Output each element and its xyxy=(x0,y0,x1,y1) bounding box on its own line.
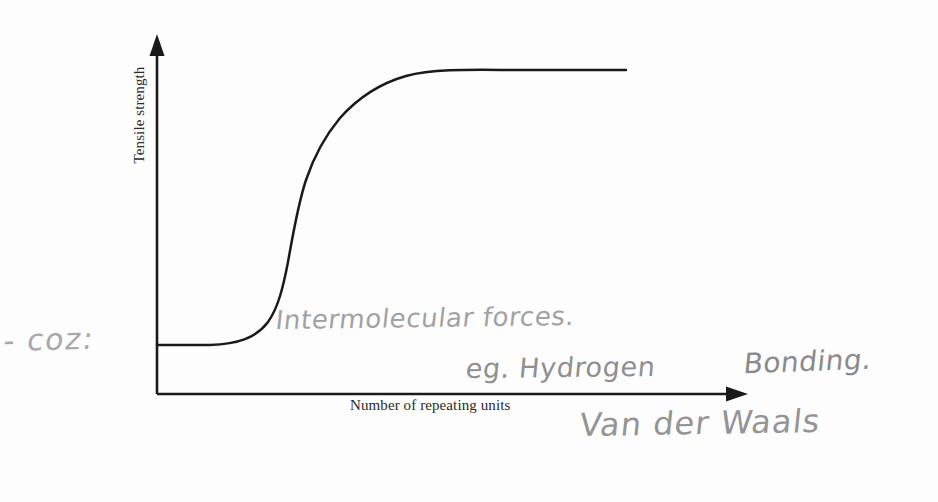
y-axis xyxy=(150,34,165,394)
x-axis-label: Number of repeating units xyxy=(350,397,510,414)
y-axis-label: Tensile strength xyxy=(131,67,148,164)
annotation-van-der-waals: Van der Waals xyxy=(578,402,823,444)
annotation-bonding: Bonding. xyxy=(742,343,873,380)
figure-page: Tensile strength Number of repeating uni… xyxy=(0,0,938,502)
annotation-eg-hydrogen: eg. Hydrogen xyxy=(464,351,657,384)
annotation-intermolecular-forces: Intermolecular forces. xyxy=(274,301,576,335)
annotation-left-margin-note: - coz: xyxy=(2,321,97,358)
